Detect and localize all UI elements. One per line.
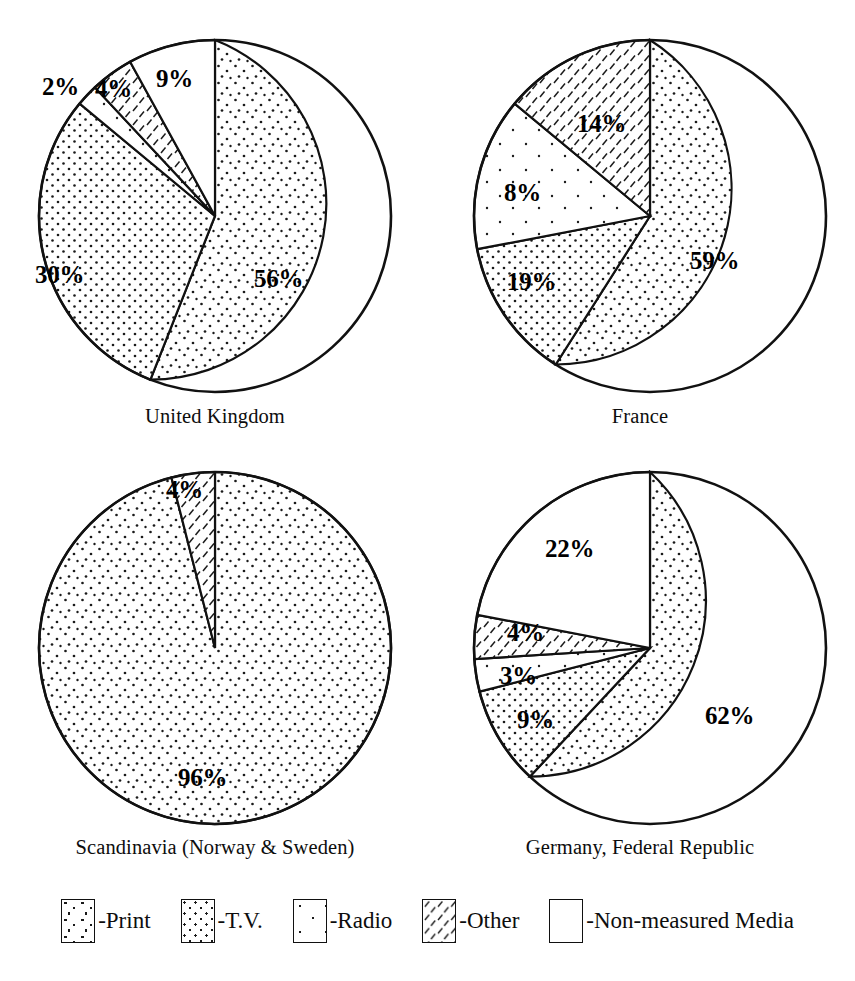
caption-united-kingdom: United Kingdom xyxy=(0,405,430,428)
slice-label-france-other: 14% xyxy=(577,111,626,136)
nonmeasured-pattern-swatch-icon xyxy=(549,899,583,943)
legend-item-tv: -T.V. xyxy=(181,899,263,943)
pie-chart-figure: 56% 30% 2% 4% 9% United Kingdom 59% 19% … xyxy=(0,0,855,981)
legend-item-radio: -Radio xyxy=(293,899,393,943)
legend-label-radio: -Radio xyxy=(330,908,393,934)
pie-chart-germany: 62% 9% 3% 4% 22% xyxy=(472,470,828,826)
slice-label-uk-other: 4% xyxy=(95,76,132,101)
slice-label-uk-tv: 30% xyxy=(35,262,84,287)
slice-label-scandinavia-print: 96% xyxy=(178,765,227,790)
pie-svg-germany xyxy=(472,470,828,826)
pie-chart-united-kingdom: 56% 30% 2% 4% 9% xyxy=(37,38,393,394)
slice-label-france-radio: 8% xyxy=(504,180,541,205)
pie-chart-scandinavia: 96% 4% xyxy=(37,470,393,826)
slice-label-france-tv: 19% xyxy=(507,269,556,294)
tv-pattern-swatch-icon xyxy=(181,899,215,943)
legend-label-other: -Other xyxy=(459,908,519,934)
print-pattern-swatch-icon xyxy=(61,899,95,943)
slice-label-germany-radio: 3% xyxy=(500,663,537,688)
legend-label-tv: -T.V. xyxy=(218,908,263,934)
legend-item-nonmeasured: -Non-measured Media xyxy=(549,899,794,943)
slice-label-germany-nonmeasured: 22% xyxy=(545,536,594,561)
slice-label-uk-print: 56% xyxy=(254,266,303,291)
caption-scandinavia: Scandinavia (Norway & Sweden) xyxy=(0,836,430,859)
slice-label-germany-print: 62% xyxy=(705,703,754,728)
legend-item-print: -Print xyxy=(61,899,150,943)
slice-label-france-print: 59% xyxy=(690,248,739,273)
pie-chart-france: 59% 19% 8% 14% xyxy=(472,38,828,394)
slice-label-germany-other: 4% xyxy=(507,620,544,645)
pie-svg-uk xyxy=(37,38,393,394)
legend-label-nonmeasured: -Non-measured Media xyxy=(586,908,794,934)
legend-item-other: -Other xyxy=(422,899,519,943)
slice-label-germany-tv: 9% xyxy=(517,707,554,732)
chart-legend: -Print -T.V. -Radio -Other -Non-measured… xyxy=(0,893,855,949)
pie-svg-france xyxy=(472,38,828,394)
slice-label-scandinavia-other: 4% xyxy=(166,477,203,502)
legend-label-print: -Print xyxy=(98,908,150,934)
radio-pattern-swatch-icon xyxy=(293,899,327,943)
slice-label-uk-nonmeasured: 9% xyxy=(156,66,193,91)
slice-label-uk-radio: 2% xyxy=(42,74,79,99)
caption-france: France xyxy=(425,405,855,428)
other-pattern-swatch-icon xyxy=(422,899,456,943)
caption-germany: Germany, Federal Republic xyxy=(425,836,855,859)
other-pattern-svg xyxy=(423,900,455,942)
